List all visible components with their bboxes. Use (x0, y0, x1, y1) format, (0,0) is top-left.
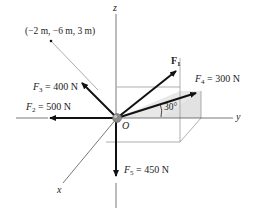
f4-label: F4 = 300 N (195, 74, 240, 86)
origin-label: O (122, 121, 129, 131)
origin-ball (113, 114, 122, 123)
point-marker (50, 40, 53, 43)
f2-label: F2 = 500 N (26, 102, 71, 114)
angle-label: 30° (164, 103, 177, 113)
f3-arrow (82, 83, 117, 118)
x-axis (63, 118, 117, 183)
f1-label: F1 (171, 56, 181, 68)
y-axis-label: y (236, 112, 240, 122)
z-axis-label: z (113, 3, 117, 13)
point-coordinates-label: (−2 m, −6 m, 3 m) (25, 27, 95, 37)
force-diagram: z y x O (−2 m, −6 m, 3 m) 30° F1 F2 = 50… (0, 0, 262, 221)
x-axis-label: x (57, 185, 61, 195)
f3-label: F3 = 400 N (33, 82, 78, 94)
f5-label: F5 = 450 N (124, 165, 169, 177)
